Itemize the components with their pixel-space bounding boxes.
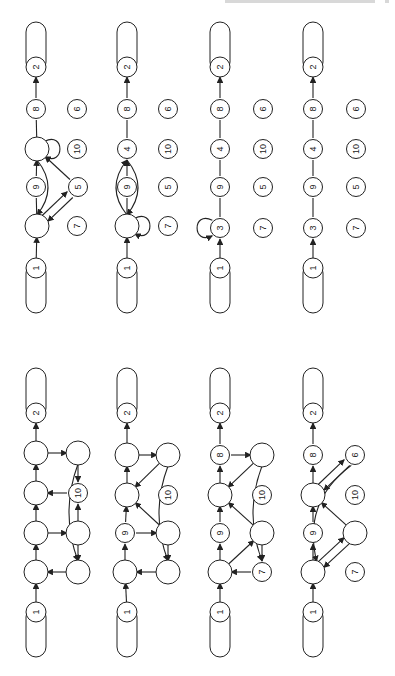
- node-label: 8: [215, 106, 225, 111]
- diagram-bottom-2: 12109: [113, 368, 180, 657]
- diagram-top-1: 121095786: [25, 22, 88, 313]
- node-unlabeled: [115, 443, 139, 467]
- diagram-bottom-4: 12861097: [301, 368, 367, 657]
- node-unlabeled: [24, 441, 48, 465]
- node-label: 5: [73, 184, 83, 189]
- node-label: 9: [215, 184, 225, 189]
- sink-terminal-label: 2: [308, 64, 318, 69]
- node-6: 6: [346, 446, 365, 465]
- node-label: 8: [215, 452, 225, 457]
- diagram-top-3: 12410953786: [197, 22, 272, 313]
- node-10: 10: [346, 486, 365, 505]
- node-10: 10: [254, 140, 273, 159]
- edge-src-s4: [126, 583, 127, 602]
- node-label: 10: [351, 144, 361, 154]
- node-unlabeled: [156, 560, 180, 584]
- edge-n5-b: [45, 156, 70, 179]
- edge-n5-a: [48, 197, 73, 221]
- sink-terminal: 2: [26, 22, 46, 77]
- source-terminal: 1: [117, 258, 137, 313]
- source-terminal: 1: [210, 602, 230, 657]
- node-5: 5: [159, 178, 178, 197]
- node-label: 10: [72, 144, 82, 154]
- node-unlabeled: [156, 521, 180, 545]
- node-unlabeled: [24, 481, 48, 505]
- node-8: 8: [304, 446, 323, 465]
- node-7: 7: [253, 563, 272, 582]
- node-label: 10: [350, 490, 360, 500]
- diagram-top-2: 1241095786: [115, 22, 178, 313]
- node-9: 9: [211, 178, 230, 197]
- source-terminal: 1: [26, 258, 46, 313]
- node-6: 6: [68, 100, 87, 119]
- node-9: 9: [116, 524, 135, 543]
- sink-terminal: 2: [210, 368, 230, 423]
- node-label: 7: [163, 223, 173, 228]
- node-10: 10: [253, 486, 272, 505]
- sink-terminal: 2: [303, 22, 323, 77]
- sink-terminal: 2: [303, 368, 323, 423]
- node-unlabeled: [115, 483, 139, 507]
- edge-r3-s4: [324, 543, 350, 567]
- source-terminal-label: 1: [215, 609, 225, 614]
- sink-terminal-label: 2: [122, 64, 132, 69]
- node-7: 7: [159, 217, 178, 236]
- node-9: 9: [211, 524, 230, 543]
- node-label: 9: [308, 184, 318, 189]
- edge-r3-s2: [135, 502, 160, 525]
- node-label: 9: [122, 184, 132, 189]
- node-label: 3: [308, 225, 318, 230]
- node-10: 10: [159, 140, 178, 159]
- node-8: 8: [304, 100, 323, 119]
- node-4: 4: [118, 140, 137, 159]
- node-7: 7: [68, 217, 87, 236]
- node-6: 6: [159, 100, 178, 119]
- node-3: 3: [211, 219, 230, 238]
- node-label: 8: [308, 452, 318, 457]
- source-terminal-label: 1: [31, 609, 41, 614]
- diagram-bottom-1: 1210: [24, 368, 90, 657]
- node-label: 9: [308, 530, 318, 535]
- edge-src-a: [36, 237, 37, 258]
- node-label: 10: [163, 144, 173, 154]
- node-9: 9: [304, 178, 323, 197]
- node-label: 8: [31, 106, 41, 111]
- sink-terminal-label: 2: [215, 410, 225, 415]
- edge-r1-s2: [228, 463, 254, 488]
- source-terminal-label: 1: [122, 265, 132, 270]
- node-8: 8: [211, 100, 230, 119]
- node-10: 10: [69, 484, 88, 503]
- sink-terminal: 2: [210, 22, 230, 77]
- node-label: 7: [350, 569, 360, 574]
- source-terminal-label: 1: [31, 265, 41, 270]
- node-label: 6: [163, 106, 173, 111]
- source-terminal-label: 1: [308, 265, 318, 270]
- node-label: 5: [351, 184, 361, 189]
- node-8: 8: [118, 100, 137, 119]
- source-terminal: 1: [303, 258, 323, 313]
- node-8: 8: [211, 446, 230, 465]
- node-unlabeled: [66, 441, 90, 465]
- node-label: 6: [72, 106, 82, 111]
- node-5: 5: [254, 178, 273, 197]
- node-unlabeled: [301, 560, 325, 584]
- source-terminal-label: 1: [308, 609, 318, 614]
- node-unlabeled: [301, 483, 325, 507]
- node-unlabeled: [24, 521, 48, 545]
- node-label: 10: [73, 488, 83, 498]
- edge-n9-s2: [126, 506, 127, 522]
- diagram-top-4: 12410953786: [303, 22, 366, 313]
- node-9: 9: [118, 178, 137, 197]
- node-unlabeled: [24, 560, 48, 584]
- node-unlabeled: [25, 137, 49, 161]
- node-label: 7: [72, 223, 82, 228]
- sink-terminal-label: 2: [31, 410, 41, 415]
- node-label: 9: [215, 530, 225, 535]
- edge-r1-r4: [69, 464, 78, 561]
- diagram-canvas: 1210957861241095786124109537861241095378…: [0, 0, 395, 676]
- node-unlabeled: [25, 214, 49, 238]
- node-unlabeled: [250, 521, 274, 545]
- edge-s4-r3: [318, 538, 344, 562]
- source-terminal: 1: [303, 602, 323, 657]
- node-unlabeled: [66, 560, 90, 584]
